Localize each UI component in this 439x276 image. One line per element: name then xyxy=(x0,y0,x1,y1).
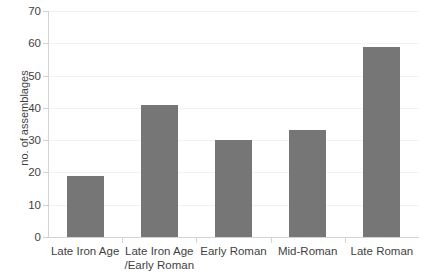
x-axis-category-label: Late Roman xyxy=(345,244,419,258)
y-axis-tick-labels: 010203040506070 xyxy=(0,0,41,276)
x-axis-category-label-line1: Early Roman xyxy=(200,245,266,257)
bar xyxy=(67,176,104,237)
bar xyxy=(215,140,252,237)
x-axis-category-label: Late Iron Age/Early Roman xyxy=(122,244,196,272)
x-axis-category-label-line1: Late Iron Age xyxy=(51,245,119,257)
x-axis-line xyxy=(48,237,419,238)
bar xyxy=(141,105,178,237)
x-axis-category-label-line1: Late Iron Age xyxy=(125,245,193,257)
x-axis-tick xyxy=(196,238,197,243)
y-axis-tick-label: 0 xyxy=(3,231,41,243)
y-axis-tick-label: 10 xyxy=(3,199,41,211)
y-axis-tick-label: 70 xyxy=(3,5,41,17)
x-axis-category-label-line1: Mid-Roman xyxy=(278,245,337,257)
x-axis-tick xyxy=(271,238,272,243)
x-axis-category-label-line2: /Early Roman xyxy=(122,258,196,272)
x-axis-category-label-line1: Late Roman xyxy=(351,245,414,257)
x-axis-tick xyxy=(122,238,123,243)
y-axis-tick-label: 40 xyxy=(3,102,41,114)
x-axis-category-label: Late Iron Age xyxy=(48,244,122,258)
x-axis-category-label: Early Roman xyxy=(196,244,270,258)
y-axis-tick-label: 20 xyxy=(3,166,41,178)
bar xyxy=(363,47,400,237)
x-axis-category-labels: Late Iron AgeLate Iron Age/Early RomanEa… xyxy=(48,244,419,276)
bars-layer xyxy=(48,11,419,237)
bar-chart: no. of assemblages 010203040506070 Late … xyxy=(0,0,439,276)
x-axis-tick xyxy=(345,238,346,243)
y-axis-tick-label: 50 xyxy=(3,70,41,82)
x-axis-category-label: Mid-Roman xyxy=(271,244,345,258)
y-axis-tick-label: 30 xyxy=(3,134,41,146)
y-axis-tick-label: 60 xyxy=(3,37,41,49)
bar xyxy=(289,130,326,237)
